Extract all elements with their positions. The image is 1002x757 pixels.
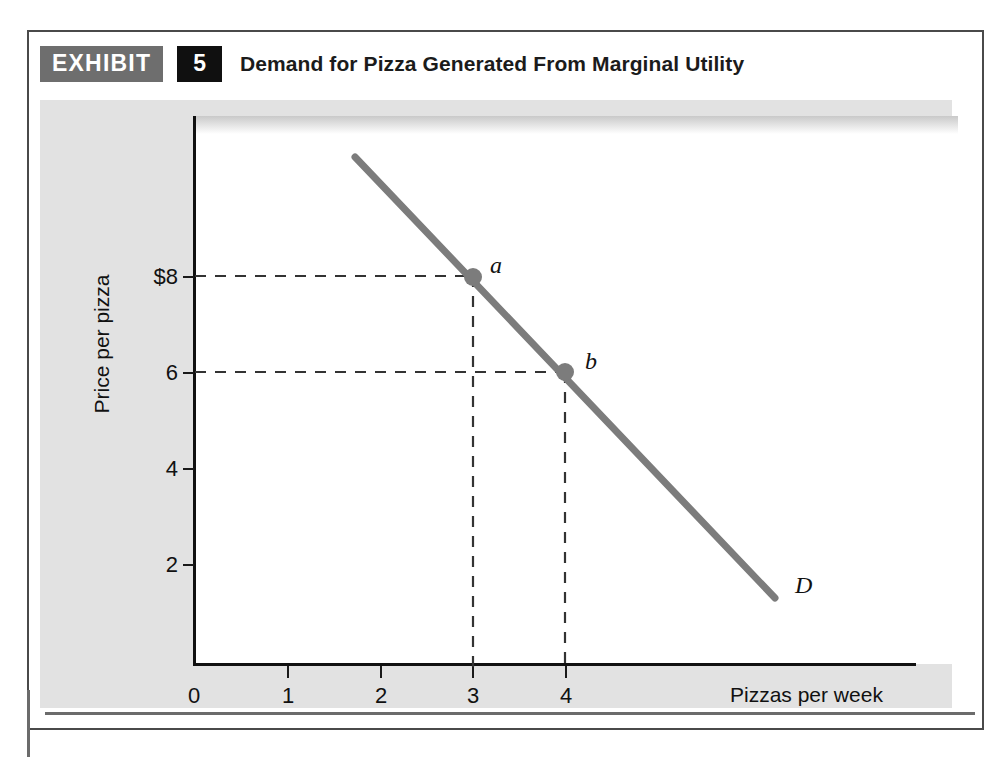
exhibit-header: EXHIBIT 5 Demand for Pizza Generated Fro… bbox=[40, 44, 744, 84]
exhibit-title: Demand for Pizza Generated From Marginal… bbox=[240, 52, 744, 76]
point-label-b: b bbox=[585, 348, 597, 375]
data-point-b bbox=[556, 363, 574, 381]
figure-panel: $8 6 4 2 0 1 2 3 4 Price per pizza Pizza… bbox=[40, 100, 952, 708]
bottom-rule bbox=[45, 712, 975, 715]
data-point-a bbox=[464, 268, 482, 286]
left-edge-rule bbox=[27, 690, 30, 757]
chart-svg bbox=[40, 100, 952, 708]
exhibit-number-badge: 5 bbox=[177, 46, 222, 82]
exhibit-page: EXHIBIT 5 Demand for Pizza Generated Fro… bbox=[0, 0, 1002, 757]
exhibit-badge: EXHIBIT bbox=[40, 46, 163, 82]
point-label-a: a bbox=[490, 252, 502, 279]
demand-curve-label: D bbox=[795, 572, 812, 599]
